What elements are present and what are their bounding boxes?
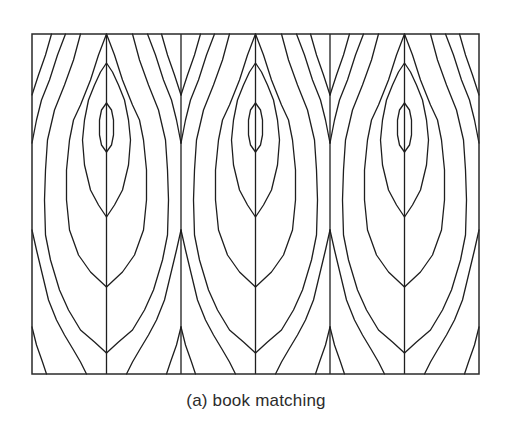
- grain-line-d-panel3-right: [405, 34, 467, 353]
- grain-line-lens-panel2-right: [256, 103, 263, 152]
- grain-line-d-panel2-left: [194, 34, 256, 353]
- grain-line-lens-panel2-left: [249, 103, 256, 152]
- grain-line-e-panel1-left: [32, 34, 66, 143]
- grain-line-f-panel1-right: [162, 34, 182, 95]
- grain-line-e-panel3-left: [330, 34, 364, 143]
- grain-line-e-panel2-left: [181, 34, 215, 143]
- grain-line-d-panel1-left: [45, 34, 107, 353]
- grain-line-lens-panel1-right: [107, 103, 114, 152]
- grain-line-h-panel2-right: [316, 327, 331, 374]
- grain-line-g-panel3-left: [330, 230, 385, 374]
- grain-line-h-panel1-right: [167, 327, 182, 374]
- grain-line-f-panel2-right: [311, 34, 331, 95]
- grain-line-g-panel1-left: [32, 230, 87, 374]
- grain-line-h-panel3-left: [330, 327, 345, 374]
- grain-line-g-panel2-left: [181, 230, 236, 374]
- panel-seams: [107, 34, 405, 374]
- grain-line-b-panel2-left: [232, 63, 256, 217]
- grain-line-d-panel2-right: [256, 34, 318, 353]
- figure-caption: (a) book matching: [0, 391, 507, 411]
- grain-line-h-panel1-left: [32, 327, 47, 374]
- grain-line-e-panel2-right: [297, 34, 331, 143]
- grain-line-f-panel1-left: [32, 34, 52, 95]
- grain-line-d-panel1-right: [107, 34, 169, 353]
- grain-line-b-panel1-right: [107, 63, 131, 217]
- grain-line-lens-panel3-left: [398, 103, 405, 152]
- grain-line-b-panel3-left: [381, 63, 405, 217]
- grain-line-g-panel1-right: [127, 230, 182, 374]
- grain-line-lens-panel3-right: [405, 103, 412, 152]
- grain-line-f-panel2-left: [181, 34, 201, 95]
- grain-line-b-panel2-right: [256, 63, 280, 217]
- grain-line-f-panel3-left: [330, 34, 350, 95]
- book-matching-diagram: [0, 0, 507, 441]
- grain-line-b-panel3-right: [405, 63, 429, 217]
- grain-line-h-panel2-left: [181, 327, 196, 374]
- grain-line-lens-panel1-left: [100, 103, 107, 152]
- grain-line-e-panel3-right: [446, 34, 480, 143]
- grain-line-d-panel3-left: [343, 34, 405, 353]
- grain-line-g-panel2-right: [276, 230, 331, 374]
- grain-line-e-panel1-right: [148, 34, 182, 143]
- grain-line-g-panel3-right: [425, 230, 480, 374]
- grain-line-b-panel1-left: [83, 63, 107, 217]
- grain-line-h-panel3-right: [465, 327, 480, 374]
- grain-line-f-panel3-right: [460, 34, 480, 95]
